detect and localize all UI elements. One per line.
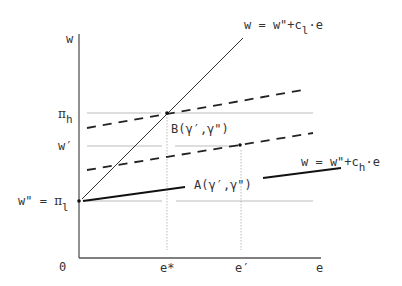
flat-line-eq-suffix: ·e	[365, 155, 379, 169]
tick-label-w-prime: w′	[58, 139, 72, 153]
point-e-prime	[238, 143, 242, 147]
x-axis-label: e	[316, 261, 323, 275]
tick-label-pi-h: πh	[58, 107, 73, 126]
steep-line-eq-suffix: ·e	[308, 18, 322, 32]
origin-label: 0	[59, 260, 66, 274]
subscript-l: l	[62, 201, 69, 214]
flat-line-eq: w = w"+c	[301, 155, 359, 169]
point-A-label: A(γ′,γ")	[194, 178, 252, 192]
steep-line-eq: w = w"+c	[244, 18, 302, 32]
subscript-l: l	[302, 24, 309, 37]
steep-line-label: w = w"+cl·e	[244, 18, 323, 37]
flat-line-segment-2	[263, 168, 341, 178]
incentive-diagram: w 0 πh w′ w" = πl e* e′ e w = w"+cl·e w …	[0, 0, 402, 286]
w-dprime-eq: w" =	[18, 194, 54, 208]
y-axis-label: w	[66, 32, 74, 46]
pi-symbol: π	[54, 194, 62, 208]
point-B-label: B(γ′,γ")	[171, 122, 229, 136]
subscript-h: h	[66, 113, 73, 126]
flat-line-segment-1	[83, 187, 185, 201]
steep-line	[82, 38, 243, 199]
lower-dashed-line	[87, 133, 313, 170]
tick-label-w-dprime: w" = πl	[18, 194, 69, 214]
pi-symbol: π	[58, 107, 66, 121]
tick-label-e-prime: e′	[235, 261, 249, 275]
subscript-h: h	[359, 161, 366, 174]
point-B	[165, 111, 169, 115]
tick-label-e-star: e*	[160, 261, 174, 275]
point-origin	[77, 199, 81, 203]
